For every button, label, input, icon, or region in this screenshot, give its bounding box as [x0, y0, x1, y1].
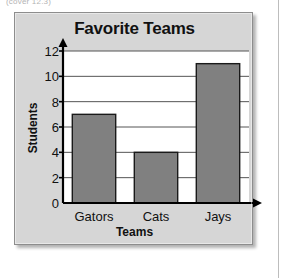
chart-panel: Favorite Teams Students Teams 024681012 …: [14, 12, 253, 245]
clipped-caption-fragment: (cover 12.3): [6, 0, 76, 8]
page-divider-rule: [278, 0, 279, 278]
bar-cats: [134, 152, 177, 203]
bar-jays: [196, 64, 239, 203]
bar-gators: [72, 114, 115, 203]
bar-chart-plot: [15, 13, 254, 246]
y-axis-arrowhead: [59, 38, 68, 47]
x-axis-arrowhead: [253, 199, 262, 208]
